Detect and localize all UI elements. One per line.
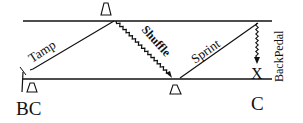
cone-bottom-middle-icon bbox=[170, 85, 181, 94]
backpedal-label: BackPedal bbox=[272, 30, 286, 82]
end-x-label: X bbox=[251, 65, 263, 82]
cone-bottom-left-icon bbox=[27, 83, 37, 92]
start-marker-vertical bbox=[22, 72, 23, 92]
backpedal-arrowhead bbox=[254, 57, 260, 64]
drill-diagram: Tamp Shuffle Sprint BackPedal X BC C bbox=[0, 0, 303, 123]
backpedal-path bbox=[256, 23, 258, 58]
shuffle-label: Shuffle bbox=[139, 23, 174, 60]
sprint-label: Sprint bbox=[188, 36, 223, 67]
bc-label: BC bbox=[16, 98, 41, 119]
c-label: C bbox=[251, 93, 264, 114]
cone-top-icon bbox=[101, 3, 111, 15]
tamp-label: Tamp bbox=[25, 37, 58, 66]
drill-diagram-svg: Tamp Shuffle Sprint BackPedal X BC C bbox=[0, 0, 303, 123]
